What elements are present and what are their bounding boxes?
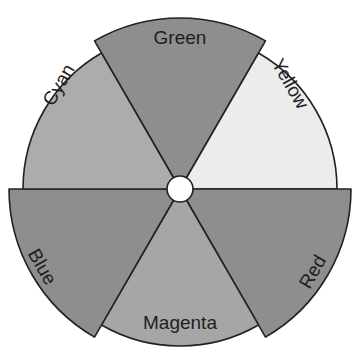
color-wheel: Green Yellow Red Magenta Blue Cyan — [0, 0, 361, 358]
label-magenta: Magenta — [143, 312, 217, 333]
center-hub — [167, 176, 193, 202]
label-green: Green — [154, 27, 207, 48]
